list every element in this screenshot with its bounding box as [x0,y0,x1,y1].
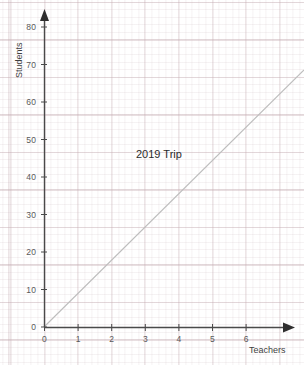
x-tick-label-2: 2 [102,334,122,344]
chart-plot-area [0,0,304,365]
x-tick-label-4: 4 [169,334,189,344]
y-tick-label-80: 80 [20,22,36,32]
y-tick-label-10: 10 [20,285,36,295]
y-axis-arrow-icon [40,9,49,21]
line-chart: 0 10 20 30 40 50 60 70 80 0 1 2 3 4 5 6 … [0,0,304,365]
x-tick-label-6: 6 [236,334,256,344]
series-annotation-2019-trip: 2019 Trip [136,148,182,160]
y-axis-title: Students [14,42,24,78]
x-tick-label-3: 3 [135,334,155,344]
y-tick-label-50: 50 [20,135,36,145]
x-axis-arrow-icon [283,323,295,333]
series-line-2019-trip [44,70,304,327]
y-tick-label-40: 40 [20,172,36,182]
x-axis-title: Teachers [249,345,286,355]
y-tick-label-20: 20 [20,247,36,257]
x-tick-label-1: 1 [68,334,88,344]
y-tick-label-30: 30 [20,210,36,220]
y-tick-label-60: 60 [20,97,36,107]
x-tick-label-0: 0 [35,334,55,344]
x-tick-label-5: 5 [203,334,223,344]
y-tick-label-0: 0 [20,322,36,332]
